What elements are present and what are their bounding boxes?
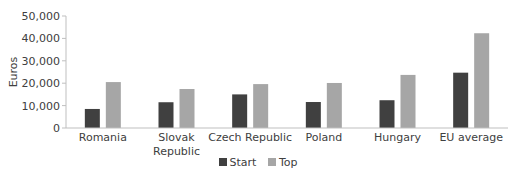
bar-start (85, 109, 100, 128)
bar-top (401, 75, 416, 128)
bar-top (253, 84, 268, 128)
y-tick-label: 30,000 (22, 55, 61, 68)
legend: Start Top (0, 156, 516, 169)
bar-top (327, 83, 342, 128)
bar-start (232, 94, 247, 128)
x-axis: RomaniaSlovakRepublicCzech RepublicPolan… (66, 128, 508, 158)
bar-top (474, 33, 489, 128)
bars (85, 33, 489, 128)
bar-chart: 010,00020,00030,00040,00050,000 RomaniaS… (0, 0, 516, 182)
x-category-label: Romania (79, 131, 127, 144)
bar-start (453, 73, 468, 128)
bar-start (380, 100, 395, 128)
y-tick-label: 20,000 (22, 77, 61, 90)
legend-swatch-top (268, 158, 276, 166)
x-category-label: Slovak (158, 131, 195, 144)
y-tick-label: 40,000 (22, 32, 61, 45)
x-category-label: EU average (439, 131, 503, 144)
legend-item-top: Top (268, 156, 298, 169)
x-category-label: Czech Republic (208, 131, 292, 144)
bar-start (306, 102, 321, 128)
y-tick-label: 10,000 (22, 100, 61, 113)
legend-label-start: Start (230, 156, 257, 169)
y-tick-label: 0 (53, 122, 60, 135)
bar-top (180, 89, 195, 128)
bar-start (159, 102, 174, 128)
legend-swatch-start (219, 158, 227, 166)
legend-item-start: Start (219, 156, 257, 169)
x-category-label: Poland (305, 131, 342, 144)
legend-label-top: Top (279, 156, 298, 169)
x-category-label: Hungary (374, 131, 421, 144)
bar-top (106, 82, 121, 128)
y-axis: 010,00020,00030,00040,00050,000 (22, 10, 67, 135)
y-tick-label: 50,000 (22, 10, 61, 23)
y-axis-label: Euros (7, 56, 20, 87)
